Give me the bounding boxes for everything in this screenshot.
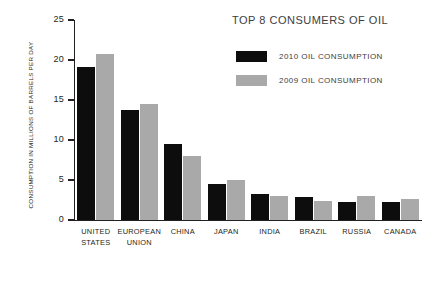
y-axis-tick — [68, 99, 74, 100]
y-axis-tick-label: 0 — [42, 214, 64, 224]
y-axis-tick — [68, 59, 74, 60]
bar-2009 — [96, 54, 114, 220]
bar-group — [118, 20, 162, 220]
y-axis-tick — [68, 219, 74, 220]
y-axis-tick-label: 25 — [42, 14, 64, 24]
bar-2009 — [314, 201, 332, 220]
bar-2009 — [183, 156, 201, 220]
bar-2010 — [382, 202, 400, 220]
bar-group — [74, 20, 118, 220]
y-axis-tick-label: 10 — [42, 134, 64, 144]
legend-swatch-2010 — [236, 51, 267, 62]
bar-2010 — [164, 144, 182, 220]
bar-2009 — [357, 196, 375, 220]
y-axis-tick-labels: 2520151050 — [36, 0, 64, 286]
y-axis-tick-label: 5 — [42, 174, 64, 184]
bar-2010 — [121, 110, 139, 220]
x-axis-line — [74, 220, 422, 221]
bar-2009 — [270, 196, 288, 220]
y-axis-tick — [68, 19, 74, 20]
y-axis-tick-label: 15 — [42, 94, 64, 104]
y-axis-tick — [68, 139, 74, 140]
bar-2010 — [338, 202, 356, 220]
bar-2010 — [208, 184, 226, 220]
bar-2010 — [77, 67, 95, 220]
bar-2009 — [140, 104, 158, 220]
legend-label-2010: 2010 OIL CONSUMPTION — [279, 50, 383, 63]
legend-label-2009: 2009 OIL CONSUMPTION — [279, 74, 383, 87]
x-axis-category-labels: UNITEDSTATESEUROPEANUNIONCHINAJAPANINDIA… — [74, 226, 422, 266]
y-axis-tick — [68, 179, 74, 180]
x-axis-label: CANADA — [371, 226, 429, 237]
bar-group — [379, 20, 423, 220]
bar-group — [161, 20, 205, 220]
bar-2009 — [227, 180, 245, 220]
bar-2009 — [401, 199, 419, 220]
chart-title: TOP 8 CONSUMERS OF OIL — [232, 14, 388, 26]
bar-2010 — [251, 194, 269, 220]
bar-2010 — [295, 197, 313, 220]
oil-consumption-bar-chart: CONSUMPTION IN MILLIONS OF BARRELS PER D… — [0, 0, 433, 286]
bar-group — [205, 20, 249, 220]
legend-swatch-2009 — [236, 75, 267, 86]
y-axis-tick-label: 20 — [42, 54, 64, 64]
